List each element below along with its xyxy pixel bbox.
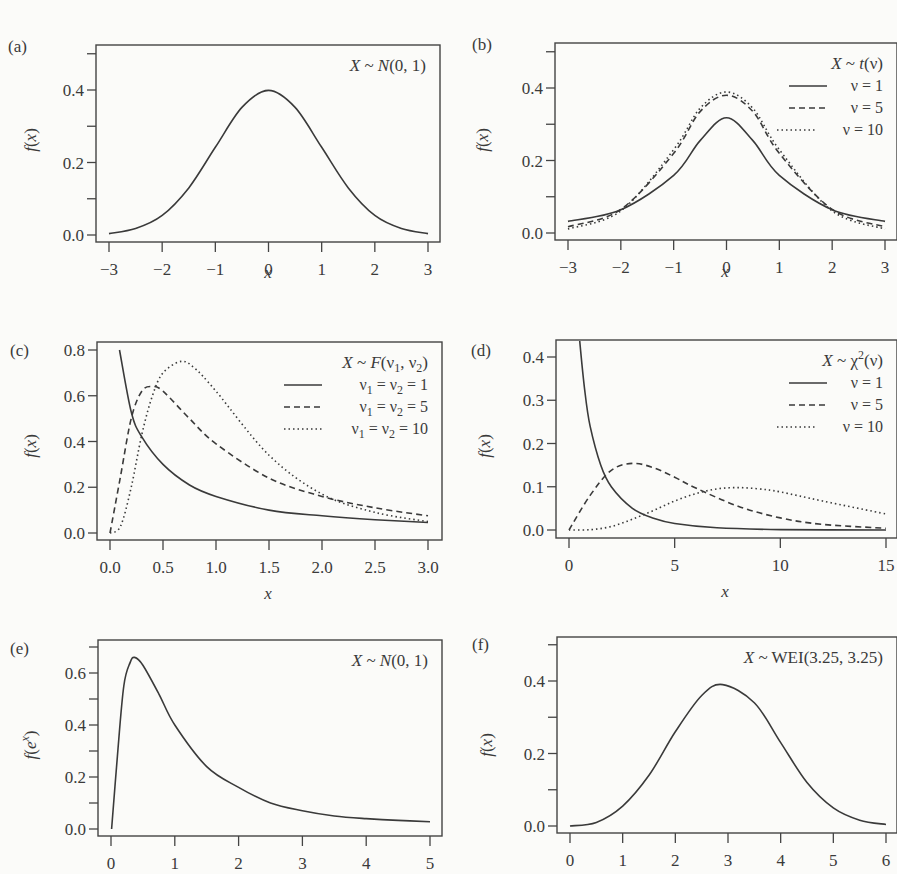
x-tick-label: 0.0 [99,558,120,577]
x-tick-label: 1.0 [205,558,226,577]
y-tick-label: 0.4 [64,433,86,452]
panel-title: X ~ χ2(ν) [821,348,883,370]
y-tick-label: 0.2 [523,435,544,454]
legend-label: ν = 5 [851,396,883,413]
panel-label: (c) [10,341,29,360]
y-tick-label: 0.3 [523,391,544,410]
x-tick-label: 5 [426,854,435,873]
series-line [568,118,885,222]
panel-c: (c)0.00.20.40.60.80.00.51.01.52.02.53.0f… [10,341,442,603]
y-tick-label: 0.8 [64,341,85,360]
x-tick-label: 10 [772,556,789,575]
panel-label: (b) [472,35,492,54]
y-tick-label: 0.4 [65,716,87,735]
panel-label: (d) [471,341,491,360]
y-axis-label: f(ex) [18,731,40,760]
x-tick-label: 0 [565,556,574,575]
panel-e: (e)0.00.20.40.6012345f(ex)X ~ N(0, 1) [10,639,442,873]
x-tick-label: 1.5 [258,558,279,577]
panel-label: (e) [10,639,29,658]
x-tick-label: 0 [107,854,116,873]
series-line [570,684,886,826]
x-tick-label: 0.5 [152,558,173,577]
series-line [569,463,886,530]
y-tick-label: 0.0 [523,521,544,540]
x-tick-label: 6 [882,851,891,870]
y-axis-label: f(x) [475,434,494,458]
y-tick-label: 0.6 [64,387,85,406]
y-axis-label: f(x) [473,128,492,152]
y-tick-label: 0.6 [65,664,86,683]
x-tick-label: −3 [100,260,118,279]
x-tick-label: −1 [206,260,224,279]
x-tick-label: 2 [671,851,680,870]
panel-label: (f) [472,635,489,654]
x-tick-label: −3 [559,258,577,277]
figure-canvas: (a)0.00.20.4−3−2−10123f(x)xX ~ N(0, 1)(b… [0,0,897,874]
x-axis-label: x [263,584,272,603]
x-axis-label: x [263,263,272,282]
y-axis-label: f(x) [21,434,40,458]
y-axis-label: f(x) [477,733,496,757]
x-tick-label: 3 [298,854,307,873]
x-tick-label: 4 [776,851,785,870]
x-tick-label: 3.0 [417,558,438,577]
legend-label: ν1 = ν2 = 5 [359,398,428,419]
legend-label: ν = 10 [843,418,883,435]
legend-label: ν1 = ν2 = 1 [359,376,428,397]
x-tick-label: 4 [362,854,371,873]
y-tick-label: 0.1 [523,478,544,497]
x-tick-label: 3 [881,258,890,277]
panel-a: (a)0.00.20.4−3−2−10123f(x)xX ~ N(0, 1) [8,37,440,282]
y-tick-label: 0.0 [64,524,85,543]
x-tick-label: 0 [566,851,575,870]
x-axis-label: x [720,262,729,281]
x-tick-label: 2.5 [364,558,385,577]
series-line [112,657,430,829]
x-tick-label: 1 [317,260,326,279]
legend-label: ν = 1 [851,374,883,391]
y-tick-label: 0.0 [65,820,86,839]
x-tick-label: 2 [371,260,380,279]
y-tick-label: 0.4 [524,672,546,691]
y-tick-label: 0.2 [522,152,543,171]
x-tick-label: 3 [724,851,733,870]
y-tick-label: 0.4 [522,79,544,98]
x-tick-label: 2 [234,854,243,873]
x-tick-label: 1 [618,851,627,870]
y-tick-label: 0.2 [65,768,86,787]
y-tick-label: 0.2 [63,154,84,173]
x-tick-label: 2 [828,258,837,277]
x-tick-label: 15 [878,556,895,575]
series-line [568,92,885,229]
y-tick-label: 0.4 [523,348,545,367]
panel-title: X ~ F(ν1, ν2) [341,353,428,375]
x-tick-label: −2 [153,260,171,279]
panel-d: (d)0.00.10.20.30.4051015f(x)xX ~ χ2(ν)ν … [471,340,897,601]
series-line [109,90,428,233]
x-tick-label: 5 [670,556,679,575]
x-tick-label: 3 [424,260,433,279]
x-tick-label: −1 [665,258,683,277]
legend-label: ν = 10 [843,121,883,138]
y-axis-label: f(x) [21,128,40,152]
panel-f: (f)0.00.20.40123456f(x)X ~ WEI(3.25, 3.2… [472,635,897,870]
y-tick-label: 0.0 [524,817,545,836]
panel-label: (a) [8,37,27,56]
y-tick-label: 0.4 [63,81,85,100]
x-tick-label: −2 [612,258,630,277]
y-tick-label: 0.2 [524,745,545,764]
x-tick-label: 1 [171,854,180,873]
legend-label: ν1 = ν2 = 10 [351,420,428,441]
legend-label: ν = 1 [851,77,883,94]
panel-b: (b)0.00.20.4−3−2−10123f(x)xX ~ t(ν)ν = 1… [472,35,897,281]
y-tick-label: 0.0 [63,226,84,245]
panel-title: X ~ N(0, 1) [349,56,426,75]
y-tick-label: 0.0 [522,224,543,243]
series-line [568,95,885,227]
panel-title: X ~ t(ν) [830,54,883,73]
panel-title: X ~ N(0, 1) [351,651,428,670]
y-tick-label: 0.2 [64,478,85,497]
panel-title: X ~ WEI(3.25, 3.25) [743,648,883,667]
x-axis-label: x [720,582,729,601]
